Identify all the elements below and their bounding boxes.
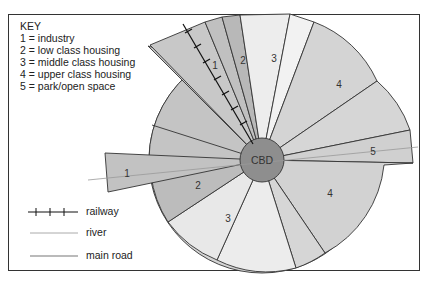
label-cbd: CBD [251, 154, 274, 166]
key-item-industry: 1 = industry [20, 32, 135, 44]
legend-railway-label: railway [86, 205, 119, 217]
key-item-park: 5 = park/open space [20, 80, 135, 92]
label-sector-4-bottom: 4 [327, 188, 333, 199]
key-item-low-class: 2 = low class housing [20, 44, 135, 56]
label-sector-1: 1 [124, 168, 130, 179]
legend-river-label: river [86, 226, 106, 238]
key-item-upper-class: 4 = upper class housing [20, 68, 135, 80]
key-title: KEY [20, 20, 135, 32]
label-sector-1-rail: 1 [212, 60, 218, 71]
legend-main-road-label: main road [86, 249, 133, 261]
label-sector-4-top: 4 [336, 79, 342, 90]
label-sector-3-top: 3 [271, 53, 277, 64]
label-sector-5: 5 [370, 146, 376, 157]
legend-symbols [28, 208, 78, 256]
key-item-middle-class: 3 = middle class housing [20, 56, 135, 68]
label-sector-2-left: 2 [195, 180, 201, 191]
label-sector-2-top: 2 [240, 55, 246, 66]
label-sector-3-bottom: 3 [225, 213, 231, 224]
key-box: KEY 1 = industry 2 = low class housing 3… [20, 20, 135, 92]
